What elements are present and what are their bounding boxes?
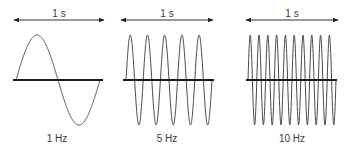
duration-label-10hz: 1 s [262,8,322,19]
panel-10hz [246,20,338,125]
duration-label-5hz: 1 s [137,8,197,19]
duration-label-1hz: 1 s [29,8,89,19]
frequency-label-10hz: 10 Hz [262,133,322,144]
frequency-diagram: 1 s 1 s 1 s 1 Hz 5 Hz 10 Hz [0,0,350,152]
frequency-label-1hz: 1 Hz [27,133,87,144]
panel-1hz [13,20,104,125]
frequency-label-5hz: 5 Hz [137,133,197,144]
panel-5hz [121,20,214,125]
waveform-canvas [0,0,350,152]
